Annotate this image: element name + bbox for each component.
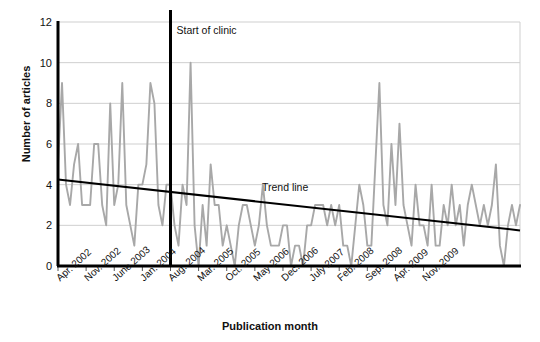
y-axis-tick-label: 2 xyxy=(26,220,52,230)
trend-line-label: Trend line xyxy=(262,181,308,193)
y-axis-tick-label: 12 xyxy=(26,17,52,27)
y-axis-tick-label: 0 xyxy=(26,261,52,271)
chart-plot-area xyxy=(0,0,540,342)
y-axis-tick-label: 4 xyxy=(26,180,52,190)
y-axis-tick-label: 6 xyxy=(26,139,52,149)
y-axis-tick-label: 10 xyxy=(26,58,52,68)
start-of-clinic-label: Start of clinic xyxy=(176,24,236,36)
chart-container: Number of articles Publication month 024… xyxy=(0,0,540,342)
y-axis-tick-label: 8 xyxy=(26,98,52,108)
